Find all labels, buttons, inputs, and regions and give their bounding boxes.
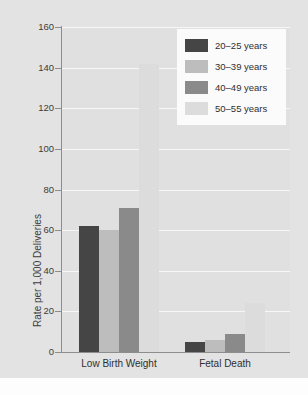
legend-swatch bbox=[185, 39, 208, 52]
legend-item: 50–55 years bbox=[185, 98, 280, 119]
legend-item: 20–25 years bbox=[185, 35, 280, 56]
y-axis-tick bbox=[55, 271, 61, 272]
y-axis-tick bbox=[55, 27, 61, 28]
x-axis-line bbox=[61, 352, 290, 353]
y-axis-tick bbox=[55, 230, 61, 231]
legend-label: 20–25 years bbox=[215, 40, 267, 51]
bar bbox=[225, 334, 245, 352]
y-axis-tick bbox=[55, 190, 61, 191]
x-axis-category-label: Fetal Death bbox=[165, 358, 285, 369]
y-axis-tick bbox=[55, 352, 61, 353]
bar bbox=[99, 230, 119, 352]
legend-item: 30–39 years bbox=[185, 56, 280, 77]
bar bbox=[139, 64, 159, 352]
legend-swatch bbox=[185, 102, 208, 115]
legend-label: 40–49 years bbox=[215, 82, 267, 93]
y-axis-title-wrapper: Rate per 1,000 Deliveries bbox=[14, 115, 30, 275]
bar bbox=[119, 208, 139, 352]
bar bbox=[245, 303, 265, 352]
bar bbox=[185, 342, 205, 352]
y-axis-tick-label: 140 bbox=[16, 63, 54, 73]
gridline bbox=[62, 149, 290, 150]
legend-swatch bbox=[185, 81, 208, 94]
bar bbox=[205, 340, 225, 352]
bar bbox=[79, 226, 99, 352]
y-axis-title: Rate per 1,000 Deliveries bbox=[32, 196, 43, 346]
gridline bbox=[62, 27, 290, 28]
gridline bbox=[62, 190, 290, 191]
y-axis-tick bbox=[55, 108, 61, 109]
y-axis-tick bbox=[55, 311, 61, 312]
legend: 20–25 years30–39 years40–49 years50–55 y… bbox=[177, 29, 286, 125]
x-axis-category-label: Low Birth Weight bbox=[59, 358, 179, 369]
y-axis-tick bbox=[55, 149, 61, 150]
legend-label: 50–55 years bbox=[215, 103, 267, 114]
y-axis-tick-label: 120 bbox=[16, 103, 54, 113]
y-axis-tick bbox=[55, 68, 61, 69]
legend-label: 30–39 years bbox=[215, 61, 267, 72]
legend-item: 40–49 years bbox=[185, 77, 280, 98]
y-axis-line bbox=[61, 26, 62, 353]
chart-figure: 160140120100806040200 Rate per 1,000 Del… bbox=[0, 0, 308, 395]
legend-swatch bbox=[185, 60, 208, 73]
y-axis-tick-label: 0 bbox=[16, 347, 54, 357]
y-axis-tick-label: 160 bbox=[16, 22, 54, 32]
